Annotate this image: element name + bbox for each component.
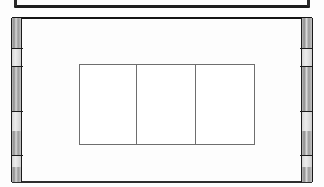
right-edge-band-fill-2 bbox=[302, 48, 312, 66]
right-edge-band bbox=[296, 18, 314, 182]
table-cell-1-text bbox=[80, 65, 136, 69]
table-cell-3 bbox=[196, 65, 255, 145]
left-edge-band-tick-2 bbox=[11, 66, 23, 67]
table-cell-2 bbox=[136, 65, 196, 145]
document-page bbox=[0, 0, 324, 187]
right-edge-band-tick-4 bbox=[300, 155, 313, 156]
left-edge-band-fill-4 bbox=[12, 111, 21, 131]
page-frame-bottom-rule bbox=[12, 181, 312, 183]
table-cell-1 bbox=[80, 65, 137, 145]
left-edge-band-fill-7 bbox=[12, 167, 21, 182]
left-edge-band-fill-1 bbox=[12, 18, 21, 48]
left-edge-band bbox=[11, 18, 29, 182]
left-edge-band-fill-5 bbox=[12, 131, 21, 155]
right-edge-band-tick-1 bbox=[300, 48, 313, 49]
left-edge-band-outer-rule bbox=[11, 18, 12, 182]
right-edge-band-tick-2 bbox=[300, 66, 313, 67]
table-cell-3-text bbox=[196, 65, 254, 69]
right-edge-band-fill-5 bbox=[302, 131, 312, 155]
left-edge-band-fill-6 bbox=[12, 155, 21, 167]
right-edge-band-fill-7 bbox=[302, 167, 312, 182]
table-cell-2-text bbox=[137, 65, 196, 69]
right-edge-band-fill-4 bbox=[302, 111, 312, 131]
left-edge-band-fill-3 bbox=[12, 66, 21, 111]
content-table-body bbox=[80, 65, 255, 145]
page-frame-top-rule bbox=[12, 17, 312, 19]
right-edge-band-inner-rule bbox=[301, 18, 302, 182]
left-edge-band-inner-rule bbox=[21, 18, 22, 182]
right-edge-band-outer-rule bbox=[312, 18, 313, 182]
left-edge-band-fill-2 bbox=[12, 48, 21, 66]
preceding-frame-bottom-rule bbox=[14, 5, 310, 8]
right-edge-band-fill-6 bbox=[302, 155, 312, 167]
right-edge-band-fill-1 bbox=[302, 18, 312, 48]
content-table bbox=[79, 64, 255, 145]
right-edge-band-tick-3 bbox=[300, 111, 313, 112]
content-table-wrapper bbox=[79, 64, 255, 145]
table-row bbox=[80, 65, 255, 145]
left-edge-band-tick-3 bbox=[11, 111, 23, 112]
left-edge-band-tick-4 bbox=[11, 155, 23, 156]
right-edge-band-fill-3 bbox=[302, 66, 312, 111]
left-edge-band-tick-1 bbox=[11, 48, 23, 49]
